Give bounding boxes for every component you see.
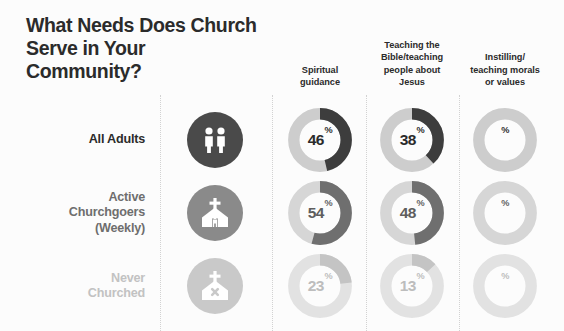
donut-active-churchgoers-spiritual-guidance: 54% [288,181,352,245]
percent-sign: % [417,125,425,135]
donut-all-adults-spiritual-guidance: 46% [288,108,352,172]
row-label-all-adults: All Adults [10,132,145,147]
donut-value-never-churched-teaching-bible: 13% [380,254,444,318]
donut-never-churched-spiritual-guidance: 23% [288,254,352,318]
row-label-line: Active [10,190,145,205]
donut-never-churched-instilling-morals: % [473,254,537,318]
row-label-line: Churched [10,286,145,301]
value-number: 46 [308,131,324,149]
value-number: 23 [308,277,324,295]
header-line: or values [450,76,560,88]
row-label-line: Churchgoers [10,205,145,220]
percent-sign: % [417,271,425,281]
donut-value-active-churchgoers-spiritual-guidance: 54% [288,181,352,245]
donut-all-adults-instilling-morals: % [473,108,537,172]
percent-sign: % [501,198,509,208]
value-number: 48 [400,204,416,222]
row-label-line: (Weekly) [10,221,145,236]
donut-value-all-adults-teaching-bible: 38% [380,108,444,172]
percent-sign: % [325,125,333,135]
donut-value-active-churchgoers-instilling-morals: % [473,181,537,245]
row-label-never-churched: NeverChurched [10,271,145,302]
column-divider-2 [366,95,367,331]
percent-sign: % [501,271,509,281]
donut-value-never-churched-spiritual-guidance: 23% [288,254,352,318]
donut-active-churchgoers-teaching-bible: 48% [380,181,444,245]
row-label-active-churchgoers: ActiveChurchgoers(Weekly) [10,190,145,236]
header-line: Instilling/ [450,51,560,63]
value-number: 54 [308,204,324,222]
column-header-instilling-morals: Instilling/teaching moralsor values [450,51,560,88]
row-label-line: All Adults [10,132,145,147]
donut-value-active-churchgoers-teaching-bible: 48% [380,181,444,245]
page-title: What Needs Does Church Serve in Your Com… [26,14,266,83]
donut-active-churchgoers-instilling-morals: % [473,181,537,245]
donut-value-all-adults-instilling-morals: % [473,108,537,172]
donut-all-adults-teaching-bible: 38% [380,108,444,172]
two-people-icon [187,112,243,168]
donut-never-churched-teaching-bible: 13% [380,254,444,318]
value-number: 13 [400,277,416,295]
donut-value-never-churched-instilling-morals: % [473,254,537,318]
percent-sign: % [417,198,425,208]
percent-sign: % [501,125,509,135]
column-divider-0 [160,95,161,331]
column-header-slot-instilling-morals: Instilling/teaching moralsor values [450,24,560,88]
value-number: 38 [400,131,416,149]
church-person-icon [187,185,243,241]
column-divider-3 [459,95,460,331]
row-label-line: Never [10,271,145,286]
column-divider-1 [272,95,273,331]
percent-sign: % [325,271,333,281]
percent-sign: % [325,198,333,208]
header-line: teaching morals [450,64,560,76]
church-x-icon [187,258,243,314]
infographic-canvas: What Needs Does Church Serve in Your Com… [0,0,564,331]
donut-value-all-adults-spiritual-guidance: 46% [288,108,352,172]
